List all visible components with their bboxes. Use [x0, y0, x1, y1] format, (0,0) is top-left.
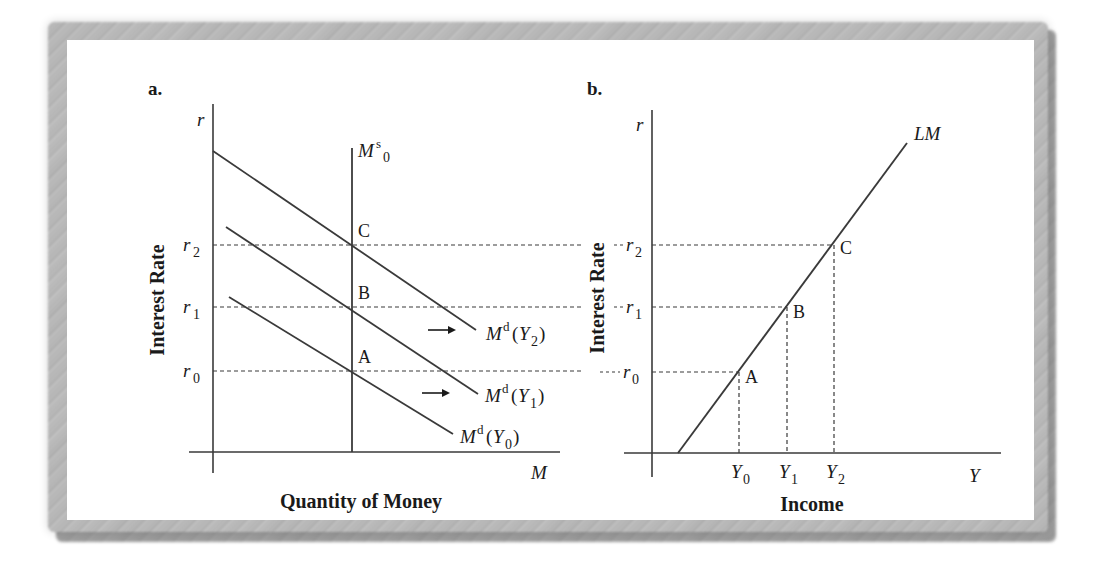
svg-text:): ): [538, 385, 544, 407]
svg-text:2: 2: [635, 245, 642, 260]
panel-a-y-title: Interest Rate: [146, 244, 168, 355]
money-demand-label-y1: M d ( Y 1 ): [484, 381, 544, 411]
svg-text:d: d: [503, 319, 510, 334]
money-demand-curve-y2: [213, 151, 476, 330]
panel-a-y-symbol: r: [197, 109, 205, 130]
money-market-lm-diagram: a. r M Interest Rate Quantity of Money r…: [0, 0, 1105, 569]
svg-text:r: r: [626, 296, 634, 317]
panel-a-label: a.: [148, 78, 162, 99]
svg-text:2: 2: [193, 245, 200, 260]
money-demand-label-y2: M d ( Y 2 ): [485, 319, 545, 349]
panel-b-point-b: B: [793, 302, 805, 322]
panel-a: a. r M Interest Rate Quantity of Money r…: [146, 78, 583, 513]
svg-text:1: 1: [530, 396, 537, 411]
svg-text:M: M: [459, 426, 477, 447]
lm-curve-label: LM: [913, 123, 942, 144]
panel-a-tick-r1: r 1: [183, 296, 200, 322]
svg-text:): ): [513, 426, 519, 448]
panel-b-tick-r1: r 1: [626, 296, 642, 322]
panel-b-tick-r2: r 2: [626, 234, 642, 260]
svg-text:0: 0: [632, 372, 639, 387]
svg-text:): ): [539, 323, 545, 345]
money-demand-label-y0: M d ( Y 0 ): [459, 422, 519, 452]
svg-text:d: d: [502, 381, 509, 396]
svg-text:r: r: [183, 296, 191, 317]
svg-text:M: M: [484, 385, 502, 406]
svg-text:2: 2: [531, 334, 538, 349]
svg-text:(: (: [512, 323, 518, 345]
panel-b-tick-y1: Y 1: [779, 461, 798, 487]
panel-a-x-symbol: M: [530, 462, 548, 483]
panel-b-point-c: C: [840, 238, 852, 258]
svg-text:d: d: [477, 422, 484, 437]
svg-text:1: 1: [635, 307, 642, 322]
panel-b-tick-y2: Y 2: [826, 461, 845, 487]
panel-b-y-symbol: r: [636, 114, 644, 135]
panel-b-x-symbol: Y: [969, 465, 982, 486]
svg-text:r: r: [623, 361, 631, 382]
svg-text:r: r: [183, 234, 191, 255]
panel-a-x-title: Quantity of Money: [280, 490, 442, 513]
panel-a-tick-r0: r 0: [183, 360, 200, 386]
svg-text:M: M: [357, 140, 375, 161]
svg-text:r: r: [626, 234, 634, 255]
panel-b: b. r Y Interest Rate Income r 2 r 1 r: [586, 78, 1001, 515]
panel-b-y-title: Interest Rate: [586, 242, 608, 353]
svg-text:0: 0: [743, 472, 750, 487]
svg-text:0: 0: [505, 437, 512, 452]
panel-b-tick-y0: Y 0: [731, 461, 750, 487]
svg-text:s: s: [376, 136, 381, 151]
panel-b-point-a: A: [745, 367, 758, 387]
svg-text:M: M: [485, 323, 503, 344]
svg-text:2: 2: [838, 472, 845, 487]
svg-text:(: (: [511, 385, 517, 407]
panel-a-point-b: B: [358, 283, 370, 303]
panel-b-label: b.: [587, 78, 602, 99]
svg-text:1: 1: [791, 472, 798, 487]
panel-a-point-c: C: [358, 221, 370, 241]
lm-curve: [678, 143, 907, 453]
svg-text:r: r: [183, 360, 191, 381]
money-demand-curve-y0: [229, 297, 453, 434]
panel-b-tick-r0: r 0: [623, 361, 639, 387]
panel-b-x-title: Income: [780, 493, 843, 515]
panel-a-tick-r2: r 2: [183, 234, 200, 260]
svg-text:0: 0: [193, 371, 200, 386]
money-supply-label: M s 0: [357, 136, 390, 165]
svg-text:0: 0: [383, 150, 390, 165]
panel-a-point-a: A: [358, 347, 371, 367]
svg-text:(: (: [486, 426, 492, 448]
svg-text:1: 1: [193, 307, 200, 322]
